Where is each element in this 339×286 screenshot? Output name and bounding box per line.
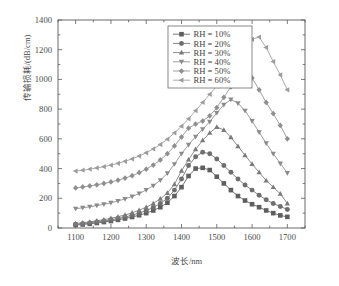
series-marker <box>214 124 219 129</box>
series-marker <box>172 181 177 186</box>
series-marker <box>172 194 177 199</box>
series-marker <box>101 181 106 187</box>
chart-plot-area: 1100120013001400150016001700020040060080… <box>0 0 339 286</box>
legend-marker <box>179 41 184 46</box>
series-marker <box>222 181 227 186</box>
series-marker <box>108 163 113 168</box>
series-marker <box>228 170 233 175</box>
x-axis-title: 波长/nm <box>0 254 339 266</box>
series-marker <box>165 200 170 205</box>
series-marker <box>144 166 149 172</box>
series-marker <box>285 171 290 176</box>
series-marker <box>80 184 85 190</box>
series-marker <box>264 208 269 213</box>
series-marker <box>193 166 198 171</box>
series-marker <box>193 154 198 159</box>
series-marker <box>136 153 141 158</box>
series-marker <box>235 176 240 181</box>
series-marker <box>151 184 156 189</box>
series-marker <box>179 185 184 190</box>
series-marker <box>172 188 177 193</box>
series-marker <box>285 87 290 92</box>
series-marker <box>243 198 248 203</box>
series-marker <box>179 168 184 173</box>
series-marker <box>129 173 134 179</box>
series-marker <box>73 207 78 212</box>
series-marker <box>243 182 248 187</box>
series-marker <box>228 98 233 103</box>
series-marker <box>214 174 219 179</box>
x-axis-title-text: 波长/nm <box>137 256 202 266</box>
series-marker <box>271 201 276 206</box>
series-marker <box>270 59 275 64</box>
x-tick-label: 1200 <box>102 232 119 242</box>
series-marker <box>179 176 184 181</box>
series-marker <box>285 136 290 142</box>
series-marker <box>200 118 205 124</box>
series-marker <box>122 175 127 181</box>
series-marker <box>257 205 262 210</box>
series-marker <box>115 177 120 183</box>
series-marker <box>229 188 234 193</box>
series-marker <box>151 201 156 206</box>
series-marker <box>80 168 85 173</box>
series-marker <box>101 164 106 169</box>
series-marker <box>285 207 290 212</box>
x-tick-label: 1300 <box>138 232 155 242</box>
y-tick-label: 400 <box>39 164 52 174</box>
series-marker <box>207 168 212 173</box>
series-marker <box>263 45 268 50</box>
series-marker <box>214 156 219 161</box>
series-marker <box>115 161 120 166</box>
series-marker <box>278 213 283 218</box>
series-line <box>76 168 288 225</box>
series-marker <box>207 151 212 156</box>
y-tick-label: 600 <box>39 134 52 144</box>
series-marker <box>158 201 163 206</box>
series-marker <box>200 150 205 155</box>
legend-label: RH = 60% <box>194 75 231 85</box>
series-marker <box>285 215 290 220</box>
series-marker <box>143 150 148 155</box>
series-marker <box>122 159 127 164</box>
series-marker <box>257 193 262 198</box>
series-marker <box>278 123 283 129</box>
x-tick-label: 1700 <box>279 232 296 242</box>
series-marker <box>158 178 163 183</box>
series-marker <box>144 204 149 209</box>
series-marker <box>264 100 269 106</box>
chart-figure: 1100120013001400150016001700020040060080… <box>0 0 339 286</box>
legend: RH = 10%RH = 20%RH = 30%RH = 40%RH = 50%… <box>168 26 252 88</box>
series-marker <box>271 111 276 117</box>
series-line <box>76 127 288 224</box>
series-marker <box>73 185 78 191</box>
x-tick-label: 1600 <box>243 232 260 242</box>
series-marker <box>278 72 283 77</box>
series-marker <box>87 183 92 189</box>
series-marker <box>256 34 261 39</box>
series-marker <box>264 197 269 202</box>
series-marker <box>144 188 149 193</box>
series-marker <box>129 156 134 161</box>
y-tick-label: 0 <box>48 223 52 233</box>
series-marker <box>221 163 226 168</box>
y-tick-label: 1000 <box>35 74 52 84</box>
series-marker <box>193 121 198 127</box>
y-tick-label: 800 <box>39 104 52 114</box>
series-marker <box>250 188 255 193</box>
series-marker <box>108 179 113 185</box>
series-marker <box>137 170 142 176</box>
series-marker <box>250 202 255 207</box>
series-marker <box>256 130 261 135</box>
series-marker <box>151 162 156 168</box>
y-tick-label: 1200 <box>35 45 52 55</box>
y-tick-label: 200 <box>39 193 52 203</box>
series-marker <box>278 204 283 209</box>
series-marker <box>158 142 163 147</box>
series-marker <box>271 211 276 216</box>
x-tick-label: 1400 <box>173 232 190 242</box>
series-marker <box>200 166 205 171</box>
series-marker <box>256 87 261 93</box>
series-marker <box>151 205 156 210</box>
series-marker <box>94 182 99 188</box>
